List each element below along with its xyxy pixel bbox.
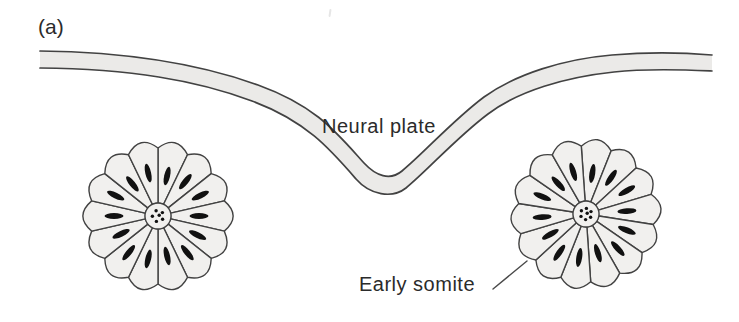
early-somite-label: Early somite — [359, 274, 475, 294]
lumen-dot — [154, 209, 157, 212]
lumen-dot — [161, 218, 164, 221]
left-somite — [83, 142, 233, 289]
lumen-dot — [585, 207, 588, 210]
lumen-dot — [161, 211, 164, 214]
cell-nucleus — [105, 213, 124, 219]
cell-nucleus — [190, 213, 209, 219]
lumen-dot — [589, 216, 592, 219]
right-somite — [511, 140, 661, 289]
lumen-dot — [586, 212, 589, 215]
somites-layer — [83, 140, 661, 290]
lumen-dot — [158, 214, 161, 217]
early-somite-leader-line — [493, 261, 527, 289]
lumen-dot — [589, 210, 592, 213]
lumen-dot — [584, 218, 587, 221]
neural-plate-label: Neural plate — [322, 116, 436, 136]
lumen-dot — [155, 220, 158, 223]
lumen-dot — [151, 215, 154, 218]
lumen-dot — [579, 215, 582, 218]
panel-label: (a) — [38, 16, 64, 37]
lumen-dot — [580, 209, 583, 212]
figure-panel: (a) Neural plate Early somite — [0, 0, 739, 322]
